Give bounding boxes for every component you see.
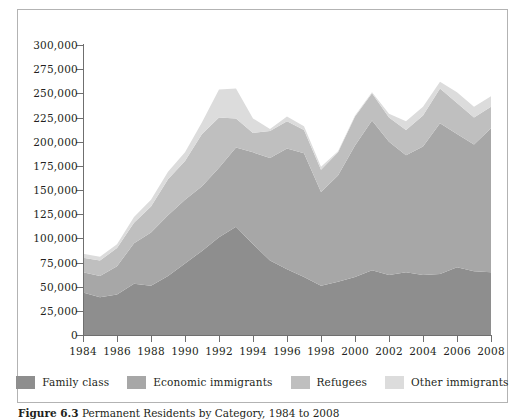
y-tick-label: 150,000 [33,184,78,196]
caption-text: Permanent Residents by Category, 1984 to… [82,407,340,419]
legend-swatch [127,376,146,389]
x-tick-label: 1996 [273,345,301,357]
y-tick-label: 200,000 [33,136,78,148]
x-tick-mark [219,336,220,342]
x-tick-mark [321,336,322,342]
legend-item: Economic immigrants [127,376,272,389]
y-tick-label: 275,000 [33,63,78,75]
y-tick-label: 300,000 [33,39,78,51]
plot-area [83,45,491,335]
x-tick-mark [355,336,356,342]
x-tick-label: 1994 [239,345,267,357]
y-tick-label: 250,000 [33,87,78,99]
y-tick-label: 225,000 [33,112,78,124]
x-tick-mark [83,336,84,342]
legend-label: Other immigrants [411,376,509,388]
legend-swatch [291,376,310,389]
x-tick-label: 1988 [137,345,165,357]
legend-swatch [16,376,35,389]
x-tick-mark [423,336,424,342]
x-tick-label: 2006 [443,345,471,357]
x-tick-label: 2002 [375,345,403,357]
legend-label: Refugees [317,376,368,388]
legend-item: Refugees [291,376,368,389]
x-tick-label: 2000 [341,345,369,357]
x-tick-mark [151,336,152,342]
y-tick-label: 50,000 [40,281,78,293]
legend-label: Family class [42,376,109,388]
x-tick-mark [491,336,492,342]
legend-swatch [385,376,404,389]
chart-legend: Family classEconomic immigrantsRefugeesO… [18,371,507,393]
x-tick-label: 2008 [477,345,505,357]
caption-label: Figure 6.3 [18,407,79,419]
stacked-area-svg [83,45,491,335]
x-tick-label: 1998 [307,345,335,357]
x-tick-mark [389,336,390,342]
y-tick-label: 175,000 [33,160,78,172]
legend-label: Economic immigrants [153,376,272,388]
y-tick-label: 100,000 [33,232,78,244]
x-tick-mark [287,336,288,342]
y-tick-label: 75,000 [40,257,78,269]
figure-caption: Figure 6.3 Permanent Residents by Catego… [18,407,518,419]
legend-item: Other immigrants [385,376,509,389]
figure-container: 025,00050,00075,000100,000125,000150,000… [0,0,525,420]
x-tick-label: 2004 [409,345,437,357]
x-tick-label: 1986 [103,345,131,357]
y-tick-label: 0 [71,329,78,341]
x-tick-mark [117,336,118,342]
x-tick-mark [457,336,458,342]
x-tick-mark [185,336,186,342]
y-axis-labels: 025,00050,00075,000100,000125,000150,000… [83,45,84,335]
x-tick-mark [253,336,254,342]
x-axis-labels: 1984198619881990199219941996199820002002… [83,336,492,362]
x-tick-label: 1984 [69,345,97,357]
y-tick-label: 125,000 [33,208,78,220]
x-tick-label: 1992 [205,345,233,357]
legend-item: Family class [16,376,109,389]
x-tick-label: 1990 [171,345,199,357]
y-tick-label: 25,000 [40,305,78,317]
